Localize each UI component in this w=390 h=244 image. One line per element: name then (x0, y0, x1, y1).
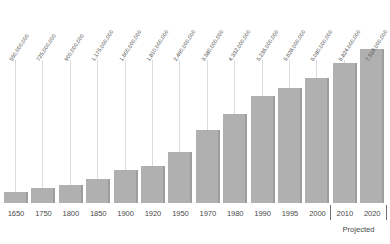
bar-rect-1920 (141, 166, 165, 203)
bar-rect-1980 (223, 114, 247, 203)
value-label-2010: 6,824,000,000 (337, 29, 362, 62)
leader-line-1750 (42, 60, 43, 188)
leader-line-1800 (70, 60, 71, 185)
bar-1900 (114, 170, 138, 203)
value-label-1920: 1,810,000,000 (145, 29, 170, 62)
value-label-1990: 5,236,000,000 (255, 29, 280, 62)
value-label-1650: 550,000,000 (8, 33, 30, 62)
bar-rect-1995 (278, 88, 302, 203)
bar-1950 (168, 152, 192, 203)
leader-line-1650 (15, 60, 16, 192)
leader-line-1980 (234, 60, 235, 114)
year-label-1920: 1920 (141, 209, 165, 218)
bar-2010 (333, 63, 357, 203)
year-label-1970: 1970 (196, 209, 220, 218)
value-label-1850: 1,175,000,000 (90, 29, 115, 62)
projected-bracket (330, 205, 387, 220)
bar-1980 (223, 114, 247, 203)
leader-line-1995 (289, 60, 290, 88)
value-label-1995: 5,628,000,000 (282, 29, 307, 62)
bar-1995 (278, 88, 302, 203)
bar-rect-1950 (168, 152, 192, 203)
value-label-1970: 3,580,000,000 (200, 29, 225, 62)
bar-1970 (196, 130, 220, 203)
leader-line-1970 (207, 60, 208, 130)
population-bar-chart: 550,000,0001650725,000,0001750900,000,00… (0, 0, 390, 244)
year-label-1980: 1980 (223, 209, 247, 218)
bar-rect-1970 (196, 130, 220, 203)
value-label-1950: 2,490,000,000 (172, 29, 197, 62)
bar-rect-1990 (251, 96, 275, 203)
leader-line-2000 (316, 60, 317, 78)
bar-rect-2020 (360, 49, 384, 203)
year-label-1650: 1650 (4, 209, 28, 218)
value-label-1900: 1,600,000,000 (118, 29, 143, 62)
bar-1800 (59, 185, 83, 203)
leader-line-2010 (344, 60, 345, 63)
year-label-1990: 1990 (251, 209, 275, 218)
leader-line-1950 (179, 60, 180, 152)
plot-area: 550,000,0001650725,000,0001750900,000,00… (0, 0, 390, 244)
value-label-1800: 900,000,000 (63, 33, 85, 62)
leader-line-1990 (262, 60, 263, 96)
bar-2020 (360, 49, 384, 203)
bar-1990 (251, 96, 275, 203)
year-label-1800: 1800 (59, 209, 83, 218)
year-label-1995: 1995 (278, 209, 302, 218)
bar-rect-1900 (114, 170, 138, 203)
year-label-1850: 1850 (86, 209, 110, 218)
value-label-1750: 725,000,000 (35, 33, 57, 62)
leader-line-1900 (125, 60, 126, 170)
leader-line-1920 (152, 60, 153, 166)
bar-1650 (4, 192, 28, 203)
bar-rect-1650 (4, 192, 28, 203)
year-label-1900: 1900 (114, 209, 138, 218)
leader-line-1850 (97, 60, 98, 179)
bar-1850 (86, 179, 110, 203)
bar-rect-2000 (305, 78, 329, 203)
bar-rect-1750 (31, 188, 55, 203)
year-label-2000: 2000 (305, 209, 329, 218)
value-label-1980: 4,332,000,000 (227, 29, 252, 62)
bar-rect-1800 (59, 185, 83, 203)
bar-1750 (31, 188, 55, 203)
bar-2000 (305, 78, 329, 203)
bar-1920 (141, 166, 165, 203)
bar-rect-1850 (86, 179, 110, 203)
bar-rect-2010 (333, 63, 357, 203)
year-label-1950: 1950 (168, 209, 192, 218)
projected-caption: Projected (330, 225, 387, 234)
value-label-2000: 6,080,000,000 (309, 29, 334, 62)
year-label-1750: 1750 (31, 209, 55, 218)
